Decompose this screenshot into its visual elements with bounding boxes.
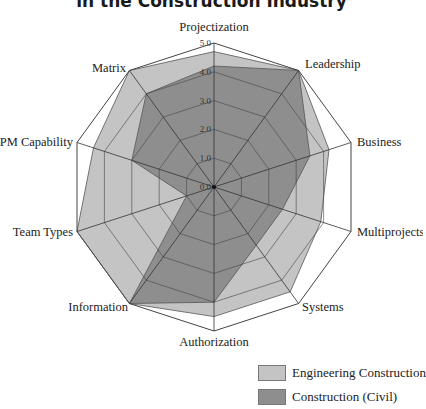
- legend-swatch-engineering: [258, 365, 286, 381]
- legend-item-engineering: Engineering Construction: [258, 362, 426, 384]
- axis-label-business: Business: [357, 135, 402, 149]
- legend-label: Construction (Civil): [292, 389, 397, 405]
- legend-swatch-civil: [258, 389, 286, 405]
- tick-label: 2.0: [200, 124, 212, 134]
- tick-label: 5.0: [200, 38, 212, 48]
- legend: Engineering Construction Construction (C…: [258, 362, 426, 409]
- tick-label: 4.0: [200, 67, 212, 77]
- axis-label-matrix: Matrix: [92, 61, 127, 75]
- legend-item-civil: Construction (Civil): [258, 386, 426, 408]
- tick-label: 0.0: [200, 182, 212, 192]
- axis-label-pm-capability: PM Capability: [0, 135, 74, 149]
- legend-label: Engineering Construction: [292, 365, 426, 381]
- center-dot: [212, 185, 216, 189]
- axis-label-authorization: Authorization: [179, 335, 249, 349]
- axis-label-information: Information: [68, 300, 128, 314]
- axis-label-leadership: Leadership: [305, 57, 361, 71]
- tick-label: 1.0: [200, 153, 212, 163]
- axis-label-projectization: Projectization: [179, 20, 249, 34]
- axis-label-systems: Systems: [302, 300, 344, 314]
- axis-label-multiprojects: Multiprojects: [357, 225, 423, 239]
- axis-label-team-types: Team Types: [13, 225, 73, 239]
- tick-label: 3.0: [200, 96, 212, 106]
